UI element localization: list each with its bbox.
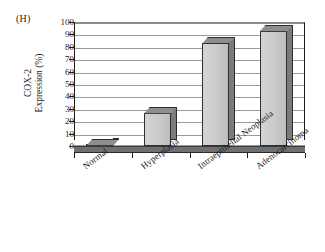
- y-axis-tick-mark: [69, 84, 74, 85]
- y-axis-tick-mark: [69, 22, 74, 23]
- gridline: [75, 23, 304, 24]
- y-axis-title: COX-2 Expression (%): [22, 28, 46, 138]
- panel-label: (H): [16, 13, 30, 24]
- y-axis-tick-mark: [69, 34, 74, 35]
- y-axis-tick-mark: [69, 59, 74, 60]
- bar: [260, 31, 287, 146]
- x-axis-tick-mark: [74, 153, 75, 158]
- bar-face: [260, 31, 287, 146]
- x-axis-tick-mark: [305, 153, 306, 158]
- chart-figure: (H) COX-2 Expression (%) 100908070605040…: [0, 0, 325, 252]
- y-axis-title-line1: COX-2: [23, 54, 34, 113]
- bar-face: [202, 43, 229, 146]
- bar-side: [229, 37, 235, 140]
- y-axis-tick-mark: [69, 134, 74, 135]
- bar: [202, 43, 229, 146]
- x-axis-tick-mark: [247, 153, 248, 158]
- bar-side: [287, 25, 293, 140]
- x-axis-tick-mark: [190, 153, 191, 158]
- x-axis-tick-mark: [132, 153, 133, 158]
- y-axis-tick-mark: [69, 109, 74, 110]
- y-axis-title-line2: Expression (%): [34, 54, 45, 113]
- y-axis-tick-mark: [69, 47, 74, 48]
- y-axis-tick-mark: [69, 72, 74, 73]
- y-axis-tick-mark: [69, 121, 74, 122]
- bar: [86, 145, 113, 146]
- y-axis-tick-mark: [69, 96, 74, 97]
